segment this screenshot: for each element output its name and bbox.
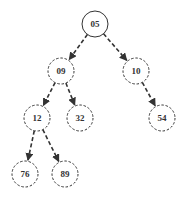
node-label: 76 — [21, 169, 31, 179]
edge-12-to-76 — [28, 131, 34, 161]
tree-node-05: 05 — [82, 11, 108, 37]
tree-diagram: 0509101232547689 — [0, 0, 185, 202]
node-label: 12 — [33, 113, 43, 123]
edge-12-to-89 — [43, 130, 59, 162]
node-label: 05 — [91, 19, 101, 29]
edge-05-to-09 — [69, 35, 87, 60]
edge-09-to-12 — [43, 83, 55, 106]
tree-node-09: 09 — [48, 58, 74, 84]
tree-node-54: 54 — [149, 105, 175, 131]
tree-node-76: 76 — [12, 161, 38, 187]
edge-10-to-54 — [142, 82, 155, 105]
tree-node-12: 12 — [24, 105, 50, 131]
node-label: 10 — [132, 66, 142, 76]
tree-node-32: 32 — [67, 105, 93, 131]
node-label: 32 — [76, 113, 86, 123]
node-label: 89 — [61, 169, 71, 179]
edges-group — [28, 34, 155, 162]
edge-09-to-32 — [66, 83, 75, 105]
nodes-group: 0509101232547689 — [12, 11, 175, 187]
tree-node-10: 10 — [123, 58, 149, 84]
node-label: 54 — [158, 113, 168, 123]
tree-node-89: 89 — [52, 161, 78, 187]
node-label: 09 — [57, 66, 67, 76]
edge-05-to-10 — [104, 34, 127, 61]
